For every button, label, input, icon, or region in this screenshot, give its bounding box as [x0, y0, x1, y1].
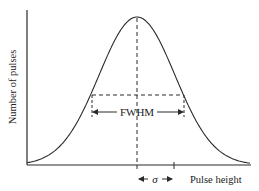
sigma-label: σ — [152, 173, 158, 185]
fwhm-label: FWHM — [120, 106, 154, 118]
x-axis-label: Pulse height — [190, 174, 242, 185]
gaussian-pulse-height-diagram: FWHM σ Pulse height Number of pulses — [0, 0, 259, 191]
gaussian-curve — [27, 17, 250, 163]
y-axis-label: Number of pulses — [7, 50, 18, 125]
